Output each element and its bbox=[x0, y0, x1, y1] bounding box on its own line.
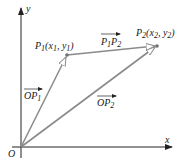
p1-label: P1(x1, y1) bbox=[34, 40, 74, 53]
svg-text:P1P2: P1P2 bbox=[100, 36, 121, 49]
x-axis-label: x bbox=[164, 134, 170, 145]
vector-op1 bbox=[21, 57, 66, 147]
op1-vector-label: OP1 bbox=[24, 89, 42, 103]
p2-label: P2(x2, y2) bbox=[135, 27, 175, 40]
vector-diagram: y x O P1(x1, y1) P2(x2, y2) P1P2 OP1 OP2 bbox=[0, 0, 179, 166]
point-p1 bbox=[65, 53, 69, 57]
svg-text:OP2: OP2 bbox=[97, 97, 114, 110]
p1p2-vector-label: P1P2 bbox=[100, 34, 121, 49]
origin-label: O bbox=[8, 148, 15, 159]
op2-vector-label: OP2 bbox=[97, 96, 116, 110]
svg-text:OP1: OP1 bbox=[24, 90, 41, 103]
point-p2 bbox=[155, 44, 159, 48]
y-axis-label: y bbox=[25, 3, 31, 14]
